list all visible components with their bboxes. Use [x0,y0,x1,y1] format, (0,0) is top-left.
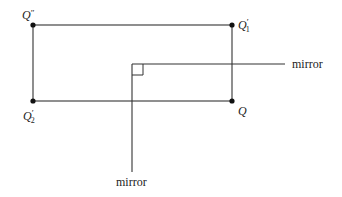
label-q-double-prime: Q″ [22,8,35,22]
point-q [229,98,234,103]
reflection-diagram: Q″ Q′1 Q′2 Q mirror mirror [0,0,342,197]
horizontal-mirror-label: mirror [292,57,323,71]
point-q-double-prime [30,22,35,27]
vertical-mirror-label: mirror [116,175,147,189]
label-q2-prime: Q′2 [23,108,35,125]
point-q2-prime [30,98,35,103]
point-q1-prime [229,22,234,27]
right-angle-marker [132,64,143,75]
label-q: Q [238,104,247,118]
label-q1-prime: Q′1 [238,17,250,34]
